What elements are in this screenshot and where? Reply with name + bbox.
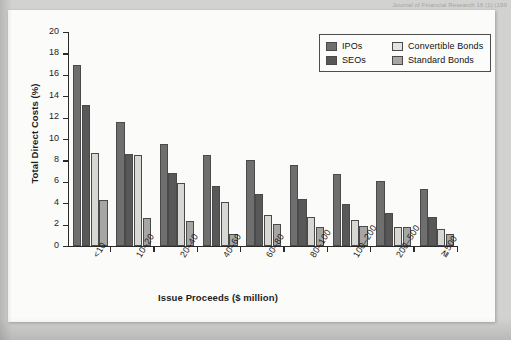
- legend-label-seos: SEOs: [342, 55, 366, 65]
- bar-group: [160, 32, 195, 246]
- y-axis-tick: 14: [63, 96, 68, 97]
- legend-item-ipos: IPOs: [326, 41, 392, 51]
- bar: [290, 165, 298, 246]
- bar: [428, 217, 436, 246]
- legend-row: SEOs Standard Bonds: [326, 53, 485, 67]
- y-axis-tick: 12: [63, 118, 68, 119]
- y-axis-line: [68, 32, 69, 247]
- bar: [125, 154, 133, 246]
- bar: [177, 183, 185, 246]
- bar: [420, 189, 428, 246]
- bar: [333, 174, 341, 246]
- legend-item-convertible-bonds: Convertible Bonds: [392, 41, 483, 51]
- bar: [91, 153, 99, 246]
- legend-swatch-standard-bonds: [392, 56, 403, 65]
- bar: [342, 204, 350, 246]
- x-axis-title: Issue Proceeds ($ million): [8, 292, 428, 303]
- y-axis-tick-label: 4: [54, 197, 59, 207]
- y-axis-tick: 2: [63, 225, 68, 226]
- x-axis-tick: [370, 247, 371, 252]
- y-axis-tick-label: 12: [49, 111, 59, 121]
- y-axis-tick: 10: [63, 139, 68, 140]
- y-axis-tick-label: 2: [54, 218, 59, 228]
- bar-group: [246, 32, 281, 246]
- y-axis-tick-label: 0: [54, 240, 59, 250]
- bar: [246, 160, 254, 246]
- y-axis-tick-label: 10: [49, 133, 59, 143]
- x-axis-tick: [327, 247, 328, 252]
- y-axis-tick-label: 20: [49, 26, 59, 36]
- bar: [82, 105, 90, 246]
- y-axis-tick: 0: [63, 246, 68, 247]
- legend-swatch-ipos: [326, 42, 337, 51]
- y-axis-tick: 6: [63, 182, 68, 183]
- y-axis-tick: 8: [63, 160, 68, 161]
- bar-group: [203, 32, 238, 246]
- legend-swatch-seos: [326, 56, 337, 65]
- x-axis-tick: [283, 247, 284, 252]
- legend-label-standard-bonds: Standard Bonds: [408, 55, 474, 65]
- legend-label-convertible-bonds: Convertible Bonds: [408, 41, 483, 51]
- bar: [255, 194, 263, 246]
- y-axis-tick: 4: [63, 203, 68, 204]
- y-axis-tick-label: 8: [54, 154, 59, 164]
- y-axis-title: Total Direct Costs (%): [29, 54, 40, 214]
- y-axis-tick: 18: [63, 53, 68, 54]
- bar-group: [116, 32, 151, 246]
- legend-label-ipos: IPOs: [342, 41, 362, 51]
- y-axis-tick-label: 18: [49, 47, 59, 57]
- bar: [134, 155, 142, 246]
- y-axis-tick-label: 14: [49, 90, 59, 100]
- legend-item-seos: SEOs: [326, 55, 392, 65]
- x-axis-tick: [197, 247, 198, 252]
- x-axis-tick: [153, 247, 154, 252]
- x-axis-tick: [240, 247, 241, 252]
- bar: [212, 186, 220, 246]
- y-axis-tick: 16: [63, 75, 68, 76]
- scanned-page-background: Journal of Financial Research 16 (1) (19…: [0, 0, 511, 340]
- x-axis-tick: [110, 247, 111, 252]
- y-axis-tick: 20: [63, 32, 68, 33]
- legend-swatch-convertible-bonds: [392, 42, 403, 51]
- bar: [160, 144, 168, 246]
- y-axis-tick-label: 16: [49, 68, 59, 78]
- x-axis-tick: [413, 247, 414, 252]
- bar-group: [73, 32, 108, 246]
- bar: [116, 122, 124, 246]
- bar: [99, 200, 107, 246]
- bar: [203, 155, 211, 246]
- legend-item-standard-bonds: Standard Bonds: [392, 55, 474, 65]
- bar: [376, 181, 384, 246]
- bar: [168, 173, 176, 246]
- chart-legend: IPOs Convertible Bonds SEOs Standard Bon…: [319, 34, 491, 72]
- y-axis-tick-label: 6: [54, 175, 59, 185]
- x-axis-tick: [457, 247, 458, 252]
- bar: [385, 213, 393, 246]
- page-header-text: Journal of Financial Research 16 (1) (19…: [185, 0, 507, 10]
- bar: [221, 202, 229, 246]
- bar: [73, 65, 81, 246]
- bar-chart-figure: Total Direct Costs (%) Issue Proceeds ($…: [8, 10, 495, 322]
- bar: [298, 199, 306, 246]
- legend-row: IPOs Convertible Bonds: [326, 39, 485, 53]
